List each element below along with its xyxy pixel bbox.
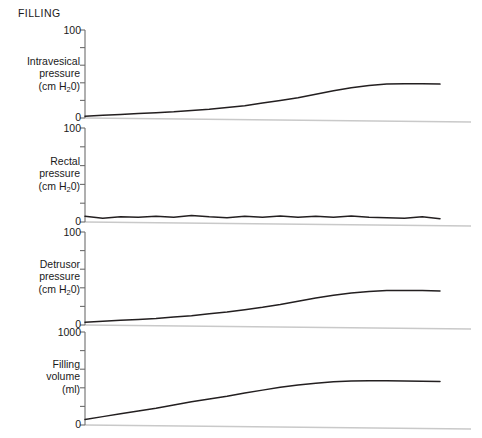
axis-min-label-filling-volume: 0 (30, 418, 81, 430)
panel-label-line-unit: (cm H20) (0, 283, 80, 297)
axis-max-label-intravesical: 100 (40, 24, 81, 36)
axis-max-label-detrusor: 100 (40, 226, 81, 238)
panel-label-line: Filling (0, 358, 80, 370)
panel-label-rectal-pressure: Rectal pressure (cm H20) (0, 155, 80, 194)
panel-label-line: pressure (0, 67, 80, 79)
panel-label-line: Intravesical (0, 55, 80, 67)
phase-title: FILLING (18, 7, 60, 19)
axis-max-label-rectal: 100 (40, 122, 81, 134)
panel-label-intravesical-pressure: Intravesical pressure (cm H20) (0, 55, 80, 94)
panel-baseline (85, 222, 471, 226)
panel-label-line-unit: (cm H20) (0, 180, 80, 194)
data-trace (85, 291, 440, 323)
panel-detrusor-pressure (80, 232, 471, 329)
panel-intravesical-pressure (80, 30, 471, 122)
panel-filling-volume (80, 332, 471, 429)
data-trace (85, 84, 440, 117)
panel-label-line: pressure (0, 270, 80, 282)
panel-label-line: Rectal (0, 155, 80, 167)
panel-rectal-pressure (80, 128, 471, 226)
panel-label-line-unit: (cm H20) (0, 80, 80, 94)
urodynamics-filling-chart: FILLING 100 0 Intravesical pressure (cm … (0, 0, 482, 438)
panel-label-line: (ml) (0, 383, 80, 395)
panel-label-filling-volume: Filling volume (ml) (0, 358, 80, 395)
panel-label-line: pressure (0, 167, 80, 179)
panel-baseline (85, 425, 471, 429)
panel-label-detrusor-pressure: Detrusor pressure (cm H20) (0, 258, 80, 297)
panel-label-line: volume (0, 370, 80, 382)
data-trace (85, 381, 440, 420)
panel-baseline (85, 325, 471, 329)
panel-label-line: Detrusor (0, 258, 80, 270)
data-trace (85, 215, 440, 218)
axis-max-label-filling-volume: 1000 (30, 326, 81, 338)
panel-baseline (85, 118, 471, 122)
